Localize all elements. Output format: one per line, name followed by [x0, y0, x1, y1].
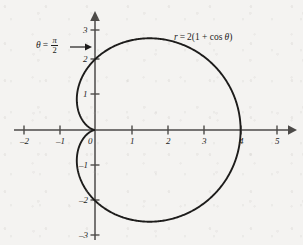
fraction-numerator: π: [51, 36, 57, 45]
theta-pointer-arrow: [70, 44, 92, 51]
xtick-label-2: 2: [166, 137, 171, 146]
xtick-label-3: 3: [202, 137, 207, 146]
xtick-label-neg2: –2: [20, 137, 29, 146]
ytick-label-neg3: –3: [79, 231, 88, 240]
ytick-label-2: 2: [83, 55, 88, 64]
xtick-label-neg1: –1: [56, 137, 65, 146]
xtick-label-4: 4: [239, 137, 244, 146]
pi-over-two-fraction: π 2: [51, 36, 58, 56]
ytick-label-neg2: –2: [79, 196, 88, 205]
fraction-denominator: 2: [51, 46, 57, 55]
cardioid-figure: –2 –1 0 1 2 3 4 5 3 2 1 –1 –2 –3 r=2(1 +…: [0, 0, 303, 245]
xtick-label-5: 5: [275, 137, 280, 146]
theta-annotation: θ = π 2: [36, 36, 58, 56]
y-axis: [90, 11, 100, 240]
ytick-label-1: 1: [83, 90, 88, 99]
xtick-label-1: 1: [130, 137, 135, 146]
x-axis: [14, 125, 297, 135]
equation-annotation: r=2(1 + cosθ): [174, 33, 232, 43]
theta-symbol: θ: [36, 41, 43, 51]
ytick-label-neg1: –1: [79, 161, 88, 170]
equation-body: 2(1 + cos: [187, 32, 222, 42]
equation-equals: =: [178, 32, 187, 42]
ytick-label-3: 3: [83, 26, 88, 35]
xtick-label-0: 0: [88, 137, 93, 146]
equation-close: ): [229, 32, 232, 42]
theta-equals: =: [43, 41, 51, 51]
